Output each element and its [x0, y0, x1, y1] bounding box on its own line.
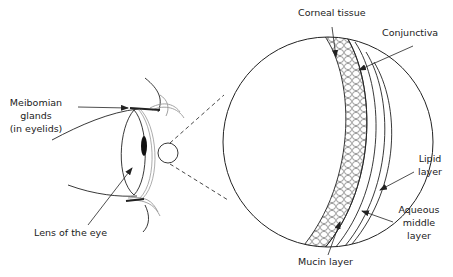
label-mucin-layer: Mucin layer	[298, 255, 353, 268]
label-meibomian-glands: Meibomian glands (in eyelids)	[6, 96, 66, 135]
label-line: Aqueous	[395, 203, 443, 216]
label-line: middle	[395, 216, 443, 229]
label-line: (in eyelids)	[6, 122, 66, 135]
label-corneal-tissue: Corneal tissue	[298, 6, 366, 19]
label-lipid-layer: Lipid layer	[412, 152, 448, 178]
label-line: Meibomian	[6, 96, 66, 109]
label-line: glands	[6, 109, 66, 122]
label-conjunctiva: Conjunctiva	[382, 26, 438, 39]
label-line: Lipid	[412, 152, 448, 165]
label-lens: Lens of the eye	[34, 226, 107, 239]
label-line: layer	[395, 229, 443, 242]
label-aqueous-layer: Aqueous middle layer	[395, 203, 443, 242]
side-eye	[52, 78, 184, 232]
label-line: layer	[412, 165, 448, 178]
